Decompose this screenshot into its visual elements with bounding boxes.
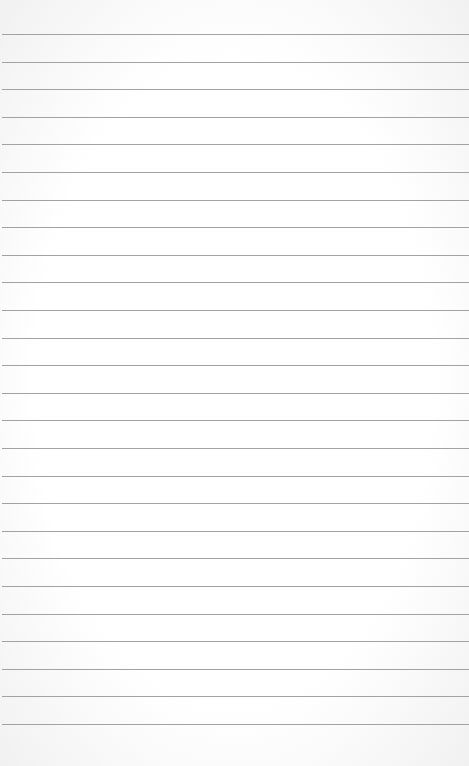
ruled-line xyxy=(2,200,469,201)
ruled-line xyxy=(2,227,469,228)
ruled-line xyxy=(2,669,469,670)
ruled-line xyxy=(2,255,469,256)
ruled-line xyxy=(2,172,469,173)
ruled-line xyxy=(2,117,469,118)
ruled-line xyxy=(2,558,469,559)
ruled-line xyxy=(2,393,469,394)
ruled-line xyxy=(2,696,469,697)
ruled-line xyxy=(2,531,469,532)
ruled-line xyxy=(2,503,469,504)
ruled-line xyxy=(2,62,469,63)
ruled-line xyxy=(2,34,469,35)
ruled-line xyxy=(2,365,469,366)
ruled-line xyxy=(2,310,469,311)
ruled-line xyxy=(2,282,469,283)
ruled-line xyxy=(2,476,469,477)
ruled-line xyxy=(2,144,469,145)
ruled-line xyxy=(2,724,469,725)
ruled-line xyxy=(2,448,469,449)
ruled-line xyxy=(2,89,469,90)
ruled-line xyxy=(2,641,469,642)
lined-paper xyxy=(0,0,469,766)
ruled-line xyxy=(2,420,469,421)
ruled-line xyxy=(2,338,469,339)
ruled-line xyxy=(2,614,469,615)
ruled-line xyxy=(2,586,469,587)
